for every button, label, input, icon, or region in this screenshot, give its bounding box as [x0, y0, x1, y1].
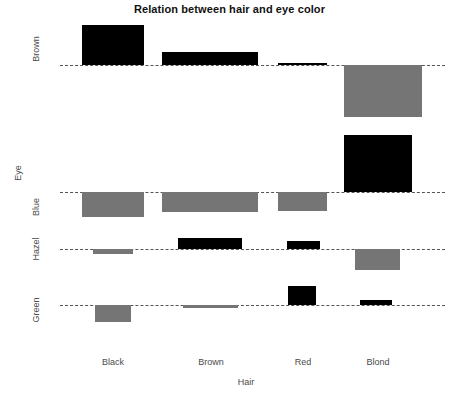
- bar-green-blond: [360, 300, 392, 305]
- bar-blue-red: [278, 192, 327, 211]
- bar-green-black: [95, 305, 131, 322]
- chart-title: Relation between hair and eye color: [0, 3, 459, 15]
- x-tick-brown: Brown: [181, 357, 241, 367]
- bar-brown-brown: [162, 52, 258, 65]
- bar-hazel-brown: [178, 238, 242, 249]
- bar-brown-black: [82, 25, 144, 65]
- y-axis-title: Eye: [13, 153, 23, 193]
- y-tick-hazel: Hazel: [31, 226, 41, 272]
- bar-blue-black: [82, 192, 144, 217]
- bar-green-red: [288, 286, 316, 305]
- y-tick-green: Green: [31, 287, 41, 333]
- bar-brown-red: [278, 63, 327, 65]
- x-axis-title: Hair: [226, 377, 266, 387]
- association-plot: Relation between hair and eye color Brow…: [0, 0, 459, 406]
- bar-blue-brown: [162, 192, 258, 212]
- x-tick-black: Black: [83, 357, 143, 367]
- y-tick-brown: Brown: [31, 26, 41, 72]
- x-tick-red: Red: [273, 357, 333, 367]
- y-tick-blue: Blue: [31, 184, 41, 230]
- bar-blue-blond: [344, 135, 412, 192]
- x-tick-blond: Blond: [348, 357, 408, 367]
- bar-hazel-black: [93, 249, 133, 254]
- bar-brown-blond: [344, 65, 422, 117]
- bar-hazel-red: [287, 241, 320, 249]
- bar-hazel-blond: [355, 249, 400, 270]
- bar-green-brown: [183, 305, 238, 308]
